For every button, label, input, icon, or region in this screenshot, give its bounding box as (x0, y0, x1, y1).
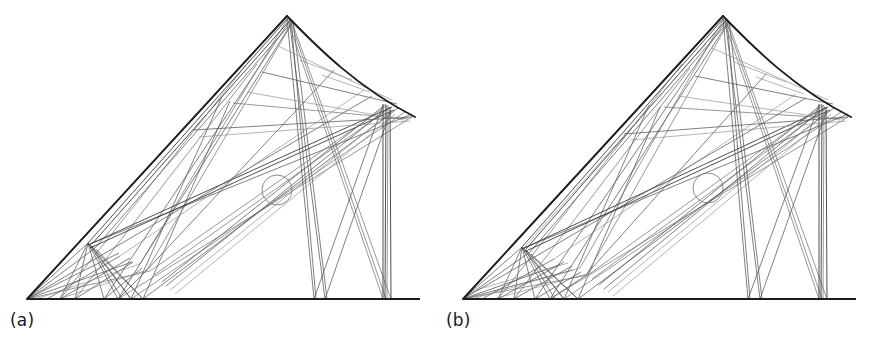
panel-b: (b) (436, 0, 873, 348)
ray-bundle-mid-sweep (463, 74, 848, 299)
envelope-left-edge (27, 16, 287, 299)
panel-b-label: (b) (446, 312, 471, 329)
panel-a-drawing (0, 0, 437, 348)
ray-bundle-lower-left (463, 247, 588, 299)
panel-a-label: (a) (10, 312, 34, 329)
envelope-left-edge (463, 16, 723, 299)
ray-bundle-right-verticals (383, 104, 391, 299)
panel-b-drawing (436, 0, 873, 348)
figure-container: (a) (0, 0, 873, 348)
ray-bundle-mid-sweep (27, 70, 412, 299)
ray-bundle-right-verticals (819, 104, 827, 299)
panel-a: (a) (0, 0, 437, 348)
ray-bundle-transverse (193, 46, 412, 137)
